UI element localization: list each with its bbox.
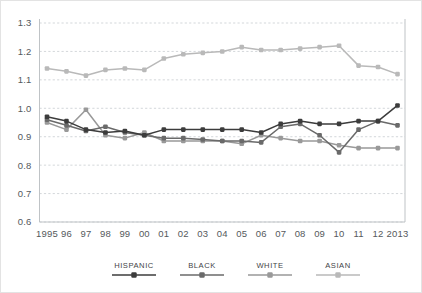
data-point-marker — [200, 127, 205, 132]
y-axis-tick-label: 1.3 — [18, 17, 32, 28]
data-point-marker — [64, 69, 69, 74]
data-point-marker — [317, 45, 322, 50]
x-axis-tick-label: 05 — [236, 228, 247, 239]
chart-svg: 1.31.21.11.00.90.80.70.61995969798990001… — [1, 1, 422, 293]
x-axis-tick-label: 00 — [139, 228, 150, 239]
data-point-marker — [181, 52, 186, 57]
data-point-marker — [103, 124, 108, 129]
data-point-marker — [337, 43, 342, 48]
data-point-marker — [181, 136, 186, 141]
data-point-marker — [356, 146, 361, 151]
x-axis-tick-label: 01 — [158, 228, 169, 239]
x-axis-tick-label: 97 — [80, 228, 91, 239]
x-axis-tick-label: 11 — [353, 228, 363, 239]
data-point-marker — [356, 119, 361, 124]
data-point-marker — [64, 119, 69, 124]
y-axis-tick-label: 1.2 — [18, 46, 32, 57]
data-point-marker — [45, 66, 50, 71]
x-axis-tick-label: 96 — [61, 228, 72, 239]
y-axis-tick-label: 0.9 — [18, 131, 32, 142]
data-point-marker — [337, 122, 342, 127]
data-point-marker — [162, 136, 167, 141]
chart-page: 1.31.21.11.00.90.80.70.61995969798990001… — [0, 0, 422, 293]
data-point-marker — [123, 136, 128, 141]
x-axis-tick-label: 12 — [373, 228, 384, 239]
data-point-marker — [278, 136, 283, 141]
data-point-marker — [84, 127, 89, 132]
legend-label: ASIAN — [325, 261, 351, 270]
data-point-marker — [239, 45, 244, 50]
data-point-marker — [142, 133, 147, 138]
data-point-marker — [317, 139, 322, 144]
data-point-marker — [220, 139, 225, 144]
data-point-marker — [395, 123, 400, 128]
data-point-marker — [200, 51, 205, 56]
data-point-marker — [200, 137, 205, 142]
data-point-marker — [142, 68, 147, 73]
data-point-marker — [162, 127, 167, 132]
data-point-marker — [395, 146, 400, 151]
data-point-marker — [337, 150, 342, 155]
data-point-marker — [220, 127, 225, 132]
y-axis-tick-label: 0.6 — [18, 216, 32, 227]
y-axis-tick-label: 1.1 — [18, 74, 32, 85]
y-axis-tick-label: 1.0 — [18, 103, 32, 114]
data-point-marker — [278, 122, 283, 127]
series-asian — [45, 43, 400, 77]
legend-swatch-marker — [267, 272, 272, 277]
data-point-marker — [123, 66, 128, 71]
data-point-marker — [64, 127, 69, 132]
data-point-marker — [181, 127, 186, 132]
legend-swatch-marker — [335, 272, 340, 277]
data-point-marker — [356, 63, 361, 68]
data-point-marker — [64, 123, 69, 128]
x-axis-tick-label: 02 — [178, 228, 189, 239]
data-point-marker — [395, 103, 400, 108]
data-point-marker — [317, 133, 322, 138]
x-axis-tick-label: 04 — [217, 228, 228, 239]
data-point-marker — [259, 130, 264, 135]
x-axis-tick-label: 03 — [197, 228, 208, 239]
data-point-marker — [239, 139, 244, 144]
x-axis-tick-label: 08 — [295, 228, 306, 239]
data-point-marker — [298, 46, 303, 51]
x-axis-tick-label: 06 — [256, 228, 267, 239]
data-point-marker — [395, 72, 400, 77]
x-axis-tick-label: 07 — [275, 228, 286, 239]
data-point-marker — [103, 130, 108, 135]
data-point-marker — [84, 107, 89, 112]
x-axis-tick-label: 1995 — [36, 228, 58, 239]
legend: HISPANICBLACKWHITEASIAN — [112, 261, 360, 278]
data-point-marker — [220, 49, 225, 54]
x-axis-tick-label: 98 — [100, 228, 111, 239]
data-point-marker — [376, 146, 381, 151]
data-point-marker — [123, 129, 128, 134]
legend-label: WHITE — [256, 261, 283, 270]
legend-swatch-marker — [199, 272, 204, 277]
x-axis-tick-label: 10 — [334, 228, 345, 239]
data-point-marker — [162, 56, 167, 61]
data-point-marker — [45, 115, 50, 120]
legend-swatch-marker — [131, 272, 136, 277]
data-point-marker — [376, 119, 381, 124]
data-point-marker — [337, 143, 342, 148]
x-axis-tick-label: 99 — [119, 228, 130, 239]
data-point-marker — [259, 140, 264, 145]
series-line — [47, 120, 398, 153]
data-point-marker — [356, 127, 361, 132]
x-axis-tick-labels: 1995969798990001020304050607080910111220… — [36, 228, 408, 239]
y-axis-tick-label: 0.8 — [18, 160, 32, 171]
data-point-marker — [376, 65, 381, 70]
data-point-marker — [259, 48, 264, 53]
data-point-marker — [84, 73, 89, 78]
line-chart: 1.31.21.11.00.90.80.70.61995969798990001… — [1, 1, 422, 293]
legend-label: BLACK — [188, 261, 216, 270]
data-point-marker — [298, 139, 303, 144]
data-point-marker — [298, 119, 303, 124]
x-axis-tick-label: 2013 — [387, 228, 409, 239]
legend-label: HISPANIC — [114, 261, 154, 270]
data-point-marker — [103, 68, 108, 73]
data-point-marker — [317, 122, 322, 127]
y-axis-tick-label: 0.7 — [18, 188, 32, 199]
data-point-marker — [239, 127, 244, 132]
